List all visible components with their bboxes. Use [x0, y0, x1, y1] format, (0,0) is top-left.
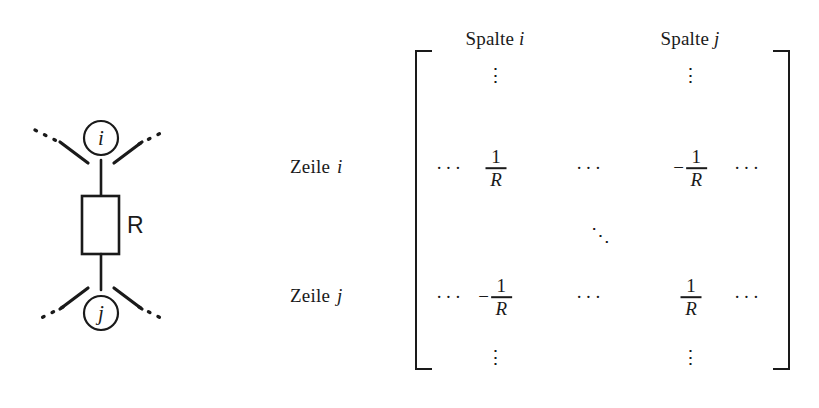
- row-j-entry-ji-sign: −: [478, 288, 489, 307]
- row-i-entry-ij-sign: −: [673, 159, 684, 178]
- row-header-j-index: j: [335, 285, 342, 306]
- fraction-minus-one-over-r: − 1 R: [673, 147, 707, 189]
- column-header-j: Spalte j: [660, 28, 719, 50]
- bottom-vdots-column-j: ⋮: [681, 348, 700, 367]
- row-i-entry-ij: − 1 R: [673, 147, 707, 189]
- matrix-diagonal-dots: ⋱: [591, 224, 610, 247]
- figure-root: i j R Spalte i Spalte j Zeile i Zeile j: [0, 0, 819, 408]
- row-i-hdots-right: ···: [734, 157, 762, 179]
- row-i-hdots-middle: ···: [576, 157, 604, 179]
- column-header-i: Spalte i: [465, 28, 524, 50]
- fraction-one-over-r: 1 R: [484, 147, 507, 189]
- resistor-body: [82, 196, 119, 254]
- row-i-entry-ij-numerator: 1: [689, 147, 705, 167]
- matrix-right-bracket: [773, 50, 790, 370]
- row-j-hdots-right: ···: [734, 286, 762, 308]
- fraction-stack: 1 R: [686, 147, 707, 189]
- top-vdots-column-i: ⋮: [486, 66, 505, 85]
- top-right-branch: [114, 142, 142, 163]
- row-header-i-text: Zeile: [290, 156, 330, 177]
- row-j-entry-ji-numerator: 1: [494, 276, 510, 296]
- row-i-entry-ii-denominator: R: [487, 169, 505, 189]
- fraction-one-over-r: 1 R: [679, 276, 702, 318]
- column-header-j-text: Spalte: [660, 28, 709, 49]
- row-j-entry-jj-denominator: R: [682, 298, 700, 318]
- matrix-figure: Spalte i Spalte j Zeile i Zeile j ⋮ ⋮ ··…: [270, 20, 819, 390]
- row-header-j: Zeile j: [290, 285, 342, 307]
- fraction-stack: 1 R: [486, 147, 507, 189]
- circuit-diagram: i j R: [0, 100, 220, 350]
- fraction-stack: 1 R: [681, 276, 702, 318]
- column-header-i-text: Spalte: [465, 28, 514, 49]
- row-j-entry-jj-numerator: 1: [683, 276, 699, 296]
- column-header-j-index: j: [714, 28, 719, 49]
- circuit-svg: i j R: [0, 100, 220, 350]
- resistor-label: R: [127, 212, 144, 238]
- top-vdots-column-j: ⋮: [681, 66, 700, 85]
- row-header-i: Zeile i: [290, 156, 342, 178]
- row-i-hdots-left: ···: [436, 157, 464, 179]
- fraction-minus-one-over-r: − 1 R: [478, 276, 512, 318]
- row-header-j-text: Zeile: [290, 285, 330, 306]
- row-i-entry-ii-numerator: 1: [488, 147, 504, 167]
- matrix-left-bracket: [415, 50, 432, 370]
- row-i-entry-ii: 1 R: [484, 147, 507, 189]
- row-j-hdots-left: ···: [436, 286, 464, 308]
- top-left-branch: [60, 142, 88, 163]
- column-header-i-index: i: [519, 28, 524, 49]
- row-j-entry-jj: 1 R: [679, 276, 702, 318]
- row-j-entry-ji: − 1 R: [478, 276, 512, 318]
- row-j-hdots-middle: ···: [576, 286, 604, 308]
- fraction-stack: 1 R: [491, 276, 512, 318]
- row-header-i-index: i: [335, 156, 342, 177]
- row-j-entry-ji-denominator: R: [493, 298, 511, 318]
- row-i-entry-ij-denominator: R: [688, 169, 706, 189]
- node-i-label: i: [98, 126, 104, 150]
- bottom-vdots-column-i: ⋮: [486, 348, 505, 367]
